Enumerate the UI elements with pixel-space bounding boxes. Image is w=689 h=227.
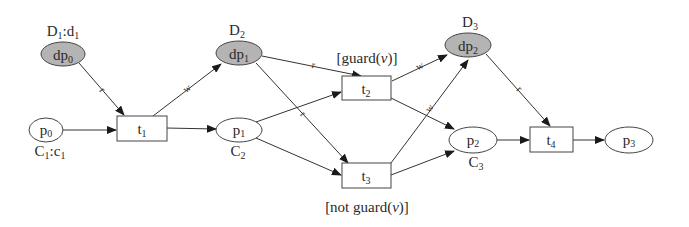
transition-t1: t1	[117, 116, 167, 141]
arc-p1-t2	[256, 92, 341, 122]
transition-t3: t3 [not guard(v)]	[325, 163, 409, 216]
arc-label-t3-dp2: w	[423, 101, 437, 114]
place-p1: p1 C2	[216, 118, 262, 161]
data-place-dp0: dp0 D1:d1	[41, 23, 85, 66]
arc-t1-p1	[166, 128, 216, 129]
arc-label-dp1-t2: r	[311, 59, 317, 71]
place-p1-color: C2	[230, 143, 245, 161]
data-place-dp2: dp2 D3	[445, 14, 491, 57]
transition-t2: t2 [guard(v)]	[337, 50, 398, 100]
data-place-dp1-domain: D2	[229, 22, 245, 40]
petri-net-diagram: r w r r w w r dp0 D1:d1 dp1 D2 dp2 D3 p0…	[0, 0, 689, 227]
arc-p1-t3	[256, 138, 341, 175]
place-p0-color: C1:c1	[35, 143, 66, 161]
arc-t3-p2	[391, 151, 454, 175]
place-p0: p0 C1:c1	[29, 118, 65, 161]
place-p2: p2 C3	[449, 127, 497, 172]
transition-t3-guard: [not guard(v)]	[325, 199, 409, 216]
place-p2-color: C3	[468, 154, 483, 172]
transition-t2-guard: [guard(v)]	[337, 50, 398, 67]
transition-t4: t4	[530, 127, 573, 152]
data-place-dp1: dp1 D2	[216, 22, 262, 65]
place-p3: p3	[605, 127, 653, 153]
data-place-dp0-domain: D1:d1	[47, 23, 80, 41]
arc-t2-p2	[391, 98, 454, 129]
data-place-dp2-domain: D3	[462, 14, 478, 32]
